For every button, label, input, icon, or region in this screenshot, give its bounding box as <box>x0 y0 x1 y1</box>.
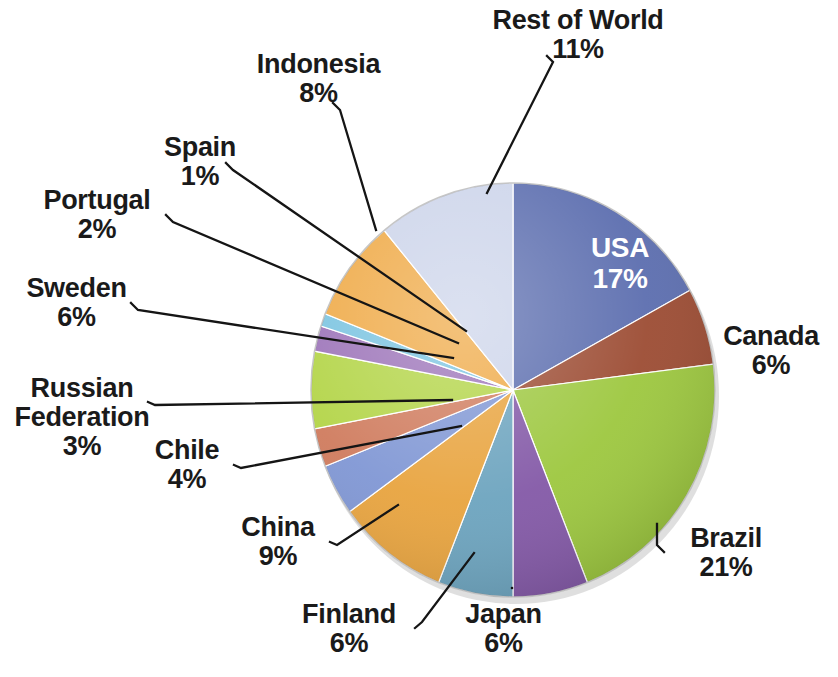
slice-label-canada: Canada 6% <box>707 322 835 380</box>
label-name-china: China <box>241 512 315 542</box>
pie-chart: Rest of World 11% Indonesia 8% Spain 1% … <box>0 0 838 677</box>
label-pct-finland: 6% <box>283 629 415 658</box>
label-name-indonesia: Indonesia <box>257 49 380 79</box>
label-pct-china: 9% <box>226 542 330 571</box>
slice-label-japan: Japan 6% <box>446 600 561 658</box>
slice-label-china: China 9% <box>226 513 330 571</box>
label-name-sweden: Sweden <box>26 273 126 303</box>
leader-line-indonesia <box>333 103 376 230</box>
label-pct-russian-federation: 3% <box>6 432 158 461</box>
slice-label-rest-of-world: Rest of World 11% <box>473 6 683 64</box>
slice-label-portugal: Portugal 2% <box>21 186 173 244</box>
slice-label-russian-federation: Russian Federation 3% <box>6 374 158 461</box>
slice-label-finland: Finland 6% <box>283 600 415 658</box>
slice-label-sweden: Sweden 6% <box>14 274 139 332</box>
label-name-spain: Spain <box>164 132 236 162</box>
label-pct-indonesia: 8% <box>236 79 401 108</box>
label-pct-brazil: 21% <box>663 553 789 582</box>
label-name-chile: Chile <box>155 435 220 465</box>
label-name-japan: Japan <box>465 599 542 629</box>
leader-line-rest-of-world <box>487 56 553 193</box>
label-name-russian-federation: Russian <box>31 373 134 403</box>
label-pct-usa: 17% <box>560 263 680 294</box>
label-pct-japan: 6% <box>446 629 561 658</box>
label-name-finland: Finland <box>302 599 396 629</box>
slice-label-indonesia: Indonesia 8% <box>236 50 401 108</box>
label-name-brazil: Brazil <box>690 523 762 553</box>
slice-label-brazil: Brazil 21% <box>663 524 789 582</box>
label-pct-chile: 4% <box>139 465 235 494</box>
label-name-rest-of-world: Rest of World <box>492 5 663 35</box>
slice-label-usa: USA 17% <box>560 232 680 295</box>
label-name-usa: USA <box>591 232 649 263</box>
label-pct-rest-of-world: 11% <box>473 35 683 64</box>
label-name2-russian-federation: Federation <box>6 403 158 432</box>
label-pct-canada: 6% <box>707 351 835 380</box>
label-name-canada: Canada <box>723 321 819 351</box>
label-pct-sweden: 6% <box>14 303 139 332</box>
slice-label-spain: Spain 1% <box>146 133 254 191</box>
slice-label-chile: Chile 4% <box>139 436 235 494</box>
label-name-portugal: Portugal <box>43 185 150 215</box>
label-pct-portugal: 2% <box>21 215 173 244</box>
